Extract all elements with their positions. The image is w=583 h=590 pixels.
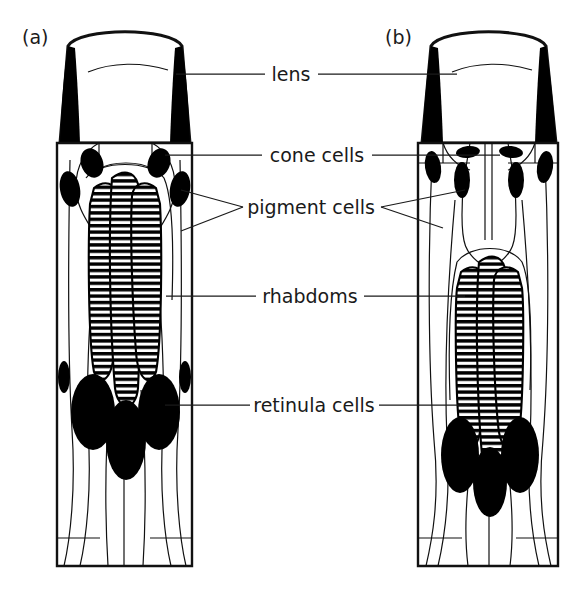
panel-a-ommatidium: [57, 32, 193, 566]
panel-b-pigment-granule-5: [454, 162, 470, 198]
label-lens: lens: [272, 63, 311, 85]
panel-a-retinula-nucleus-far-left: [58, 361, 70, 393]
label-cone-cells: cone cells: [270, 144, 364, 166]
figure-canvas: (a) (b) lens cone cells pigment cells rh…: [0, 0, 583, 590]
panel-tag-b: (b): [385, 26, 412, 48]
label-retinula-cells: retinula cells: [253, 394, 374, 416]
panel-tag-a: (a): [22, 26, 48, 48]
panel-b-ommatidium: [418, 32, 558, 566]
panel-b-retinula-nucleus-right: [501, 417, 539, 493]
label-pigment-cells: pigment cells: [247, 196, 375, 218]
ommatidium-figure: (a) (b) lens cone cells pigment cells rh…: [0, 0, 583, 590]
panel-a-rhabdom-right: [131, 183, 161, 380]
panel-a-lens-outline: [60, 32, 190, 143]
panel-b-pigment-granule-6: [508, 162, 524, 198]
label-rhabdoms: rhabdoms: [262, 285, 357, 307]
panel-a-retinula-nucleus-right: [138, 374, 180, 450]
panel-a-retinula-nucleus-far-right: [179, 361, 191, 393]
